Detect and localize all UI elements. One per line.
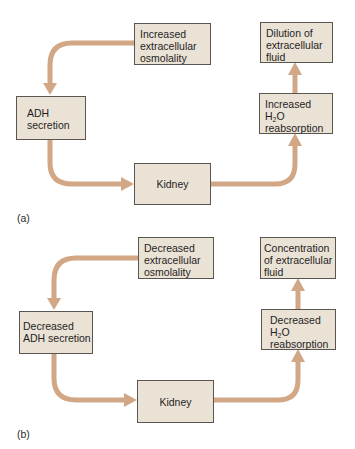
arrow-adh-to-kidney	[50, 139, 122, 184]
box-hormone-b: Decreased ADH secretion	[19, 311, 93, 354]
arrowhead-right-icon	[121, 177, 134, 191]
box-text: Kidney	[159, 396, 191, 408]
arrow-stimulus-to-adh-b	[54, 258, 138, 299]
formula-o: O	[282, 326, 290, 338]
box-text: Decreased	[270, 314, 330, 326]
arrowhead-up-icon	[288, 133, 302, 146]
box-text: ADH	[27, 107, 80, 119]
box-text: Concentration	[264, 242, 330, 254]
arrow-stimulus-to-adh	[50, 43, 134, 84]
box-text: reabsorption	[265, 122, 327, 134]
box-stimulus-a: Increased extracellular osmolality	[134, 23, 211, 65]
box-text: Dilution of	[266, 27, 327, 39]
box-text: ADH secretion	[23, 332, 89, 344]
box-text: reabsorption	[270, 338, 330, 350]
box-outcome-a: Dilution of extracellular fluid	[260, 22, 333, 63]
box-text: Increased	[265, 98, 327, 110]
panel-label-b: (b)	[17, 428, 30, 440]
box-text: secretion	[27, 119, 80, 131]
box-text: osmolality	[144, 266, 208, 278]
arrowhead-down-icon	[43, 83, 57, 95]
formula-h: H	[265, 110, 273, 122]
box-outcome-b: Concentration of extracellular fluid	[260, 237, 336, 279]
box-organ-b: Kidney	[137, 380, 214, 423]
arrowhead-down-icon	[47, 298, 61, 310]
h2o-formula: H2O	[270, 326, 330, 338]
box-response-a: Increased H2O reabsorption	[259, 93, 333, 134]
box-text: extracellular	[144, 254, 208, 266]
box-text: extracellular	[140, 40, 205, 52]
box-text: Increased	[140, 28, 205, 40]
box-hormone-a: ADH secretion	[16, 96, 86, 140]
box-text: of extracellular	[264, 254, 330, 266]
arrowhead-up-icon	[288, 62, 302, 75]
arrowhead-up-icon	[291, 349, 305, 362]
formula-h: H	[270, 326, 278, 338]
box-text: Decreased	[23, 320, 89, 332]
arrowhead-up-icon	[291, 278, 305, 291]
arrow-adh-to-kidney-b	[54, 353, 125, 400]
arrow-kidney-to-response	[211, 145, 295, 184]
box-text: extracellular	[266, 39, 327, 51]
box-text: fluid	[266, 51, 327, 63]
h2o-formula: H2O	[265, 110, 327, 122]
box-text: Kidney	[156, 178, 188, 190]
box-organ-a: Kidney	[134, 163, 211, 205]
panel-label-a: (a)	[17, 212, 30, 224]
box-response-b: Decreased H2O reabsorption	[261, 309, 336, 350]
arrow-kidney-to-response-b	[213, 361, 298, 400]
box-text: fluid	[264, 266, 330, 278]
box-text: osmolality	[140, 52, 205, 64]
formula-o: O	[277, 110, 285, 122]
box-text: Decreased	[144, 242, 208, 254]
box-stimulus-b: Decreased extracellular osmolality	[138, 237, 214, 279]
arrowhead-right-icon	[124, 393, 137, 407]
